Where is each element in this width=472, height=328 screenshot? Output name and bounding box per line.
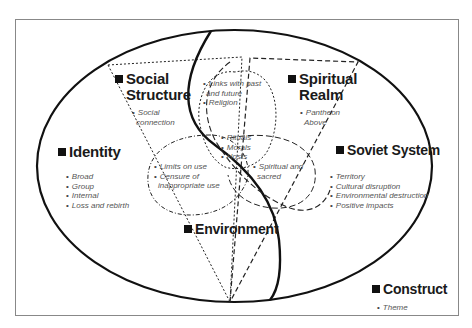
construct-label: Construct bbox=[372, 282, 447, 297]
list-item: Social bbox=[132, 108, 175, 118]
list-item: Theme bbox=[377, 303, 408, 313]
list-item: Religion bbox=[203, 98, 261, 108]
social-structure-label-line2: Structure bbox=[115, 86, 191, 103]
spiritual-realm-label: Spiritual Realm bbox=[288, 71, 357, 103]
list-item: Limits on use bbox=[154, 162, 220, 172]
list-item: Links with past bbox=[203, 79, 261, 89]
list-item-continuation: inappropriate use bbox=[154, 181, 220, 191]
list-item: Pantheon bbox=[300, 108, 340, 118]
environment-label: Environment bbox=[184, 222, 278, 237]
construct-label-text: Construct bbox=[383, 281, 447, 297]
square-bullet-icon bbox=[58, 148, 66, 156]
list-item: Morals bbox=[221, 143, 251, 153]
social-structure-label-line1: Social bbox=[126, 70, 169, 87]
square-bullet-icon bbox=[184, 225, 192, 233]
environment-label-text: Environment bbox=[195, 221, 278, 237]
spiritual-realm-label-line1: Spiritual bbox=[299, 70, 357, 87]
list-item: Hosts bbox=[221, 152, 251, 162]
spiritual-realm-items: Pantheon Above bbox=[300, 108, 340, 127]
center-overlap-items: Rituals Morals Hosts bbox=[221, 133, 251, 162]
identity-items: Broad Group Internal Loss and rebirth bbox=[66, 172, 129, 210]
social-environment-overlap-items: Limits on use Censure of inappropriate u… bbox=[154, 162, 220, 191]
identity-label-text: Identity bbox=[69, 143, 121, 160]
list-item: Territory bbox=[330, 172, 428, 182]
list-item: Censure of bbox=[154, 172, 220, 182]
list-item: Environmental destruction bbox=[330, 191, 428, 201]
square-bullet-icon bbox=[288, 75, 296, 83]
social-structure-items: Social connection bbox=[132, 108, 175, 127]
construct-items: Theme bbox=[377, 303, 408, 313]
soviet-system-label: Soviet System bbox=[336, 143, 440, 158]
list-item-continuation: connection bbox=[132, 118, 175, 128]
list-item: Broad bbox=[66, 172, 129, 182]
spiritual-realm-label-line2: Realm bbox=[288, 86, 343, 103]
square-bullet-icon bbox=[372, 285, 380, 293]
diagram-canvas bbox=[0, 0, 472, 328]
list-item: Internal bbox=[66, 191, 129, 201]
list-item-continuation: and future bbox=[203, 89, 261, 99]
spiritual-environment-overlap-items: Spiritual and sacred bbox=[253, 162, 303, 181]
list-item-continuation: Above bbox=[300, 118, 340, 128]
identity-label: Identity bbox=[58, 144, 121, 160]
list-item: Group bbox=[66, 182, 129, 192]
list-item: Positive impacts bbox=[330, 201, 428, 211]
soviet-system-label-text: Soviet System bbox=[347, 142, 440, 158]
square-bullet-icon bbox=[115, 75, 123, 83]
list-item: Spiritual and bbox=[253, 162, 303, 172]
list-item: Loss and rebirth bbox=[66, 201, 129, 211]
social-spiritual-overlap-items: Links with past and future Religion bbox=[203, 79, 261, 108]
list-item: Cultural disruption bbox=[330, 182, 428, 192]
list-item: Rituals bbox=[221, 133, 251, 143]
social-structure-label: Social Structure bbox=[115, 71, 191, 103]
soviet-system-items: Territory Cultural disruption Environmen… bbox=[330, 172, 428, 210]
identity-ellipse bbox=[37, 30, 432, 302]
list-item-continuation: sacred bbox=[253, 172, 303, 182]
square-bullet-icon bbox=[336, 146, 344, 154]
